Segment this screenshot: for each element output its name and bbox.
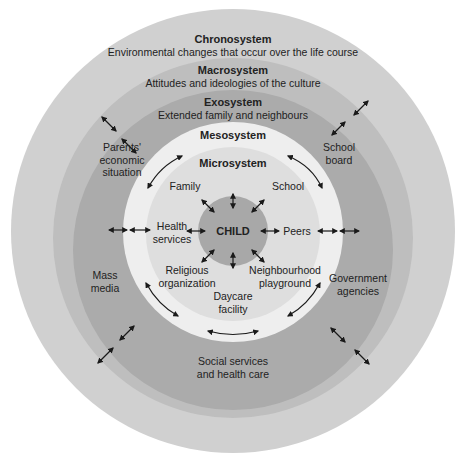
neighbourhood-line2: playground <box>249 277 321 290</box>
chronosystem-title: Chronosystem <box>108 33 358 46</box>
social-services-label: Social services and health care <box>197 355 269 380</box>
macrosystem-label: Macrosystem Attitudes and ideologies of … <box>145 64 320 89</box>
school-board-line2: board <box>323 154 355 167</box>
daycare-facility-label: Daycare facility <box>213 290 252 315</box>
health-services-line2: services <box>153 233 192 246</box>
family-label: Family <box>170 180 201 193</box>
exosystem-description: Extended family and neighbours <box>158 109 308 122</box>
health-services-line1: Health <box>153 220 192 233</box>
exosystem-title: Exosystem <box>158 96 308 109</box>
health-services-label: Health services <box>153 220 192 245</box>
exosystem-label: Exosystem Extended family and neighbours <box>158 96 308 121</box>
mass-media-line2: media <box>91 282 120 295</box>
religious-line2: organization <box>158 277 215 290</box>
macrosystem-description: Attitudes and ideologies of the culture <box>145 77 320 90</box>
peers-label: Peers <box>283 225 310 238</box>
chronosystem-description: Environmental changes that occur over th… <box>108 46 358 59</box>
school-board-line1: School <box>323 141 355 154</box>
mass-media-line1: Mass <box>91 269 120 282</box>
child-label: CHILD <box>216 225 250 238</box>
social-services-line2: and health care <box>197 368 269 381</box>
microsystem-title: Microsystem <box>199 157 266 170</box>
mass-media-label: Mass media <box>91 269 120 294</box>
school-label: School <box>272 180 304 193</box>
neighbourhood-line1: Neighbourhood <box>249 264 321 277</box>
government-agencies-label: Government agencies <box>329 272 387 297</box>
religious-line1: Religious <box>158 264 215 277</box>
school-board-label: School board <box>323 141 355 166</box>
parents-economic-situation-label: Parents' economic situation <box>100 141 145 179</box>
neighbourhood-playground-label: Neighbourhood playground <box>249 264 321 289</box>
government-line1: Government <box>329 272 387 285</box>
daycare-line1: Daycare <box>213 290 252 303</box>
daycare-line2: facility <box>213 303 252 316</box>
religious-organization-label: Religious organization <box>158 264 215 289</box>
chronosystem-label: Chronosystem Environmental changes that … <box>108 33 358 58</box>
social-services-line1: Social services <box>197 355 269 368</box>
government-line2: agencies <box>329 285 387 298</box>
parents-line2: economic <box>100 154 145 167</box>
parents-line3: situation <box>100 166 145 179</box>
macrosystem-title: Macrosystem <box>145 64 320 77</box>
parents-line1: Parents' <box>100 141 145 154</box>
mesosystem-title: Mesosystem <box>200 129 266 142</box>
